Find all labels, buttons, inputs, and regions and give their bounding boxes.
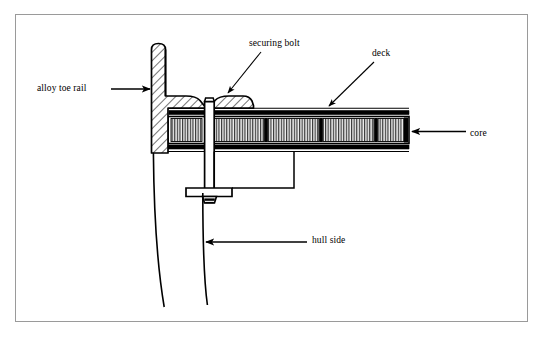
leader-securing-bolt — [228, 52, 261, 93]
cross-section-drawing — [0, 0, 544, 342]
core-block — [171, 119, 202, 142]
bolt-shank — [205, 102, 215, 194]
label-securing-bolt: securing bolt — [249, 39, 300, 49]
deck-inner-shelf — [232, 152, 294, 189]
core-glue-line — [264, 118, 268, 142]
core-block — [268, 119, 319, 142]
leader-deck — [329, 62, 374, 106]
hull-side — [153, 153, 207, 307]
label-hull-side: hull side — [312, 236, 345, 246]
label-alloy-toe-rail: alloy toe rail — [37, 84, 86, 94]
core-block — [213, 119, 264, 142]
label-deck: deck — [372, 49, 390, 59]
deck-underside-structure — [214, 152, 294, 189]
core-glue-line — [319, 118, 323, 142]
hull-inner-laminate-line — [203, 193, 208, 305]
bolt-head — [205, 98, 215, 102]
hull-outer-laminate-line — [153, 153, 164, 307]
bolt-backing-plate — [186, 188, 232, 197]
core-glue-line — [374, 118, 378, 142]
core-block — [323, 119, 374, 142]
core-outboard-edge — [404, 118, 408, 143]
figure-root: alloy toe rail securing bolt deck core h… — [0, 0, 544, 342]
label-core: core — [470, 129, 487, 139]
core-block — [378, 119, 405, 142]
